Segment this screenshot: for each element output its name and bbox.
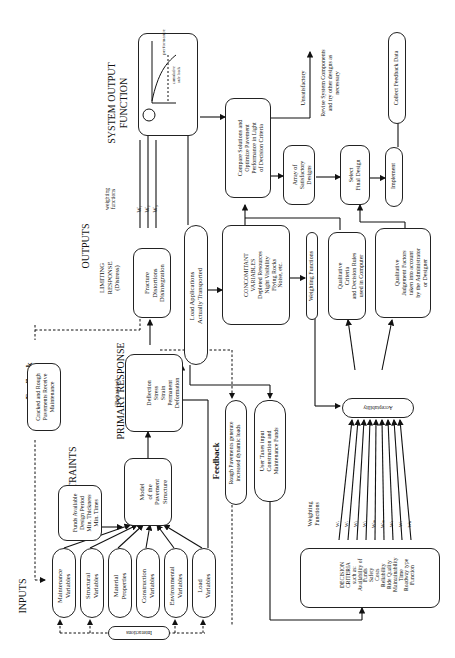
unsatisfactory-label: Unsatisfactory xyxy=(300,64,308,112)
model-text: Model of the Pavement Structure xyxy=(138,458,158,526)
input-label: Environmental Variables xyxy=(168,552,184,620)
weighting-functions-label: weighting functions xyxy=(104,182,122,216)
weight-label: W₁ xyxy=(136,203,144,215)
constraints-text: Funds Available Design Period Min. Thick… xyxy=(72,486,88,540)
system-output-heading: SYSTEM OUTPUT FUNCTION xyxy=(106,58,132,148)
acceptability-text: Acceptability xyxy=(342,398,414,418)
feedback-heading-mid: Feedback xyxy=(211,436,223,486)
limiting-response-heading: LIMITING RESPONSE (Distress) xyxy=(98,253,126,303)
concomitant-variables-text: CONCOMITANT VARIABLES Depleted Resources… xyxy=(243,231,269,319)
load-applications-text: Load Applications Actually Transported xyxy=(188,241,204,351)
weighting-functions-dc-label: Weighting Functions xyxy=(307,494,323,534)
compare-solutions-text: Compare Solutions and Optimize Pavement … xyxy=(237,103,261,193)
pavement-design-system-diagram: INPUTS CONSTRAINTS PRIMARY RESPONSE (Beh… xyxy=(0,0,455,658)
revise-label: Revise System Components and try other d… xyxy=(320,40,342,126)
qualitative-criteria-text: Qualitative Criteria and Decision Rules … xyxy=(337,237,357,315)
feedback-cracked-text: Cracked and Rough Pavements Receive Main… xyxy=(35,363,53,431)
weight-label: Wₜ xyxy=(389,518,397,530)
weight-label: Wₘ xyxy=(380,518,388,530)
qualitative-judgement-text: Qualitative Judgement Factors taken into… xyxy=(394,232,412,314)
input-label: Maintenance Variables xyxy=(56,552,72,620)
weight-label: W₂ xyxy=(144,203,152,215)
primary-response-subheading: (Behavior) xyxy=(113,373,123,413)
weight-label: W₃ xyxy=(152,203,160,215)
weight-label: Wⱼ xyxy=(353,518,361,530)
collect-feedback-text: Collect Feedback Data xyxy=(393,38,401,118)
outputs-heading: OUTPUTS xyxy=(80,216,92,276)
user-taxes-text: User Taxes input Construction and Mainte… xyxy=(259,406,281,496)
weight-label: Wⱼ xyxy=(362,518,370,530)
array-satisfactory-text: Array of Satisfactory Designs xyxy=(292,150,306,200)
weight-label: Wₕ xyxy=(407,518,415,530)
weighting-functions-text: Weighting Functions xyxy=(308,236,316,316)
graph-x-label: cumulative axle loads xyxy=(172,60,182,90)
input-label: Material Properties xyxy=(112,552,128,620)
implement-text: Implement xyxy=(390,151,398,201)
weight-label: Wᵣ xyxy=(344,518,352,530)
input-label: Load Variables xyxy=(196,552,212,620)
input-label: Structural Variables xyxy=(84,552,100,620)
inputs-heading: INPUTS xyxy=(17,571,29,621)
weight-label: Wₐ xyxy=(335,518,343,530)
graph-y-label: performance xyxy=(161,25,169,59)
limiting-response-text: Fracture Distortions Disintegration xyxy=(143,249,161,317)
primary-response-text: Deflection Stress Strain Permanent Defor… xyxy=(146,355,162,431)
interactions-label: Interactions xyxy=(110,621,168,645)
weight-label: Wᵣ xyxy=(398,518,406,530)
input-label: Construction Variables xyxy=(140,552,156,620)
feedback-rough-text: Rough Pavements generate increased dynam… xyxy=(228,403,244,503)
weight-label: Wₘ xyxy=(371,518,379,530)
select-final-design-text: Select Final Design xyxy=(348,151,362,199)
